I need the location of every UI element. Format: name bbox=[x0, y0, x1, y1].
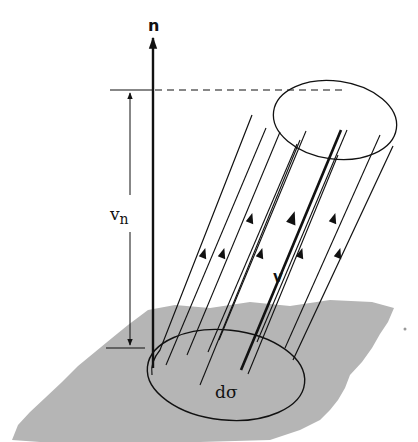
speck bbox=[404, 328, 407, 331]
surface bbox=[12, 300, 394, 442]
flux-diagram: vn n v dσ bbox=[0, 0, 418, 442]
vn-label: vn bbox=[109, 204, 129, 227]
cylinder-top-ellipse bbox=[268, 73, 402, 167]
normal-label: n bbox=[148, 16, 159, 35]
velocity-label: v bbox=[273, 268, 283, 286]
area-element-label: dσ bbox=[215, 382, 238, 402]
